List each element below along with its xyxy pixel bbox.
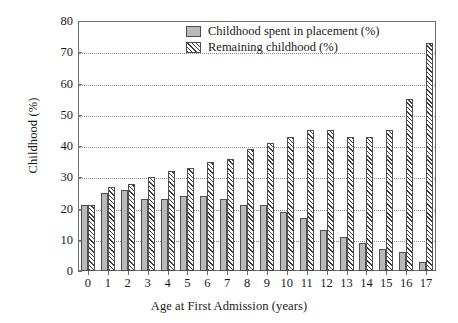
bar-group: [280, 21, 294, 271]
bar-placement: [340, 237, 347, 271]
y-tick-label: 60: [33, 78, 73, 91]
x-tick-mark: [128, 271, 129, 275]
y-tick-label: 30: [33, 171, 73, 184]
x-tick-mark: [327, 271, 328, 275]
x-tick-mark: [148, 271, 149, 275]
bar-placement: [240, 205, 247, 271]
legend-item-remaining: Remaining childhood (%): [186, 40, 380, 54]
bar-remaining: [327, 130, 334, 271]
bar-group: [359, 21, 373, 271]
solid-grey-swatch-icon: [186, 26, 201, 37]
bar-placement: [101, 193, 108, 271]
x-tick-mark: [247, 271, 248, 275]
bar-placement: [300, 218, 307, 271]
bar-group: [340, 21, 354, 271]
bar-placement: [200, 196, 207, 271]
bar-placement: [121, 190, 128, 271]
bar-remaining: [148, 177, 155, 271]
bar-placement: [399, 252, 406, 271]
bar-placement: [141, 199, 148, 271]
x-tick-mark: [426, 271, 427, 275]
bar-remaining: [207, 162, 214, 271]
x-tick-mark: [187, 271, 188, 275]
bar-group: [260, 21, 274, 271]
x-tick-mark: [406, 271, 407, 275]
y-tick-label: 40: [33, 140, 73, 153]
x-axis-title: Age at First Admission (years): [0, 299, 458, 314]
bar-placement: [359, 243, 366, 271]
bar-group: [320, 21, 334, 271]
bar-remaining: [227, 159, 234, 272]
bar-placement: [180, 196, 187, 271]
x-tick-mark: [386, 271, 387, 275]
x-tick-mark: [366, 271, 367, 275]
bar-group: [220, 21, 234, 271]
y-tick-label: 10: [33, 234, 73, 247]
bar-remaining: [307, 130, 314, 271]
bar-remaining: [88, 205, 95, 271]
bar-placement: [280, 212, 287, 271]
x-tick-mark: [168, 271, 169, 275]
bar-group: [101, 21, 115, 271]
x-tick-mark: [88, 271, 89, 275]
bars-layer: [78, 21, 436, 271]
bar-remaining: [366, 137, 373, 271]
bar-group: [419, 21, 433, 271]
x-tick-mark: [207, 271, 208, 275]
bar-group: [141, 21, 155, 271]
legend-item-placement: Childhood spent in placement (%): [186, 24, 380, 38]
bar-remaining: [406, 99, 413, 271]
diagonal-hatch-swatch-icon: [186, 42, 201, 53]
bar-group: [121, 21, 135, 271]
x-tick-mark: [267, 271, 268, 275]
y-tick-label: 50: [33, 109, 73, 122]
y-tick-label: 80: [33, 15, 73, 28]
bar-placement: [161, 199, 168, 271]
bar-group: [200, 21, 214, 271]
bar-chart-figure: Childhood (%) 01020304050607080 01234567…: [0, 0, 458, 323]
bar-placement: [81, 205, 88, 271]
bar-group: [399, 21, 413, 271]
bar-remaining: [168, 171, 175, 271]
x-tick-mark: [227, 271, 228, 275]
bar-remaining: [128, 184, 135, 272]
bar-remaining: [386, 130, 393, 271]
legend-label-remaining: Remaining childhood (%): [208, 41, 338, 54]
y-tick-label: 70: [33, 46, 73, 59]
bar-placement: [419, 262, 426, 271]
bar-remaining: [187, 168, 194, 271]
bar-group: [161, 21, 175, 271]
legend-label-placement: Childhood spent in placement (%): [208, 25, 380, 38]
bar-remaining: [108, 187, 115, 271]
bar-remaining: [267, 143, 274, 271]
bar-group: [240, 21, 254, 271]
bar-placement: [379, 249, 386, 271]
bar-group: [180, 21, 194, 271]
bar-group: [81, 21, 95, 271]
x-tick-mark: [307, 271, 308, 275]
x-tick-mark: [108, 271, 109, 275]
bar-placement: [220, 199, 227, 271]
x-tick-label: 17: [411, 277, 441, 290]
x-tick-mark: [287, 271, 288, 275]
y-tick-label: 0: [33, 265, 73, 278]
x-tick-mark: [347, 271, 348, 275]
bar-remaining: [347, 137, 354, 271]
bar-placement: [320, 230, 327, 271]
bar-remaining: [287, 137, 294, 271]
y-tick-label: 20: [33, 203, 73, 216]
bar-remaining: [426, 43, 433, 271]
bar-group: [300, 21, 314, 271]
y-tick-mark: [78, 271, 82, 272]
chart-legend: Childhood spent in placement (%) Remaini…: [186, 24, 380, 54]
bar-group: [379, 21, 393, 271]
bar-remaining: [247, 149, 254, 271]
bar-placement: [260, 205, 267, 271]
